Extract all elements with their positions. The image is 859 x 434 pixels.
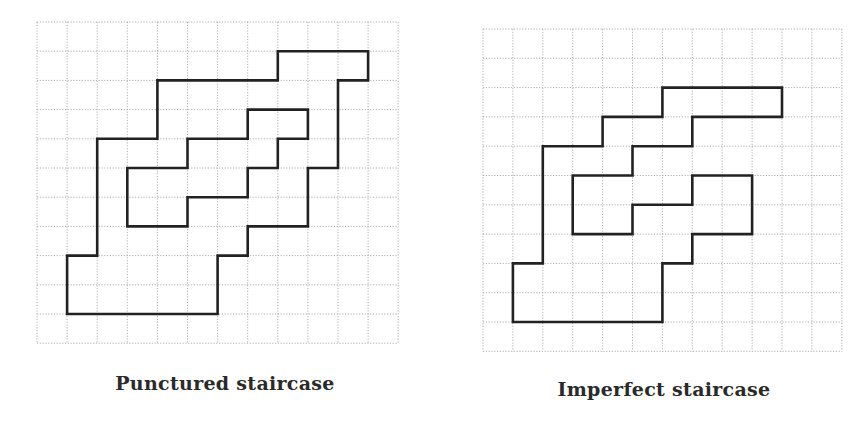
imperfect-staircase-caption: Imperfect staircase [524, 378, 804, 400]
imperfect-staircase-grid [0, 0, 859, 434]
